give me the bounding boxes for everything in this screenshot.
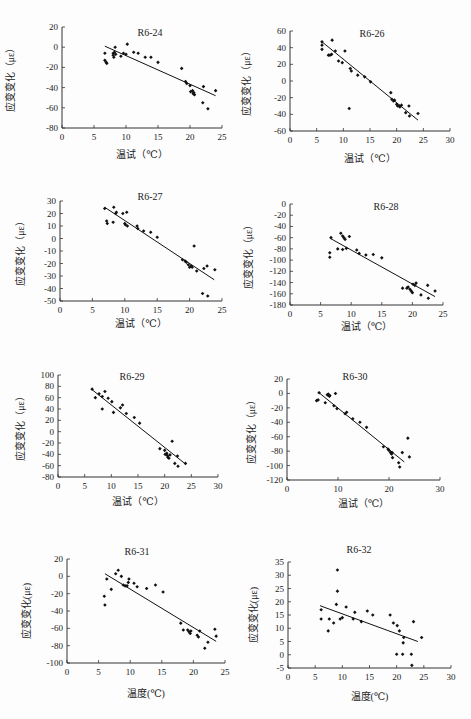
data-point	[201, 101, 205, 105]
y-tick-label: -100	[267, 461, 284, 471]
y-tick-label: 30	[47, 196, 57, 206]
data-point	[149, 230, 153, 234]
data-point	[319, 608, 323, 612]
data-point	[427, 296, 431, 300]
y-tick-label: -160	[270, 289, 287, 299]
chart-title: R6-29	[120, 371, 145, 382]
x-tick-label: 20	[392, 672, 402, 682]
data-point	[149, 56, 153, 60]
y-tick-label: -10	[44, 246, 56, 256]
data-point	[214, 634, 218, 638]
data-point	[205, 264, 209, 268]
x-axis-label: 温度(℃)	[351, 690, 389, 703]
scatter-chart-r6-29: 100806040200-20-40-60-80051015202530R6-2…	[14, 370, 223, 507]
x-tick-label: 15	[154, 132, 164, 142]
data-point	[343, 49, 347, 53]
y-tick-label: -80	[42, 472, 54, 482]
trend-line	[92, 390, 185, 464]
x-tick-label: 20	[189, 667, 199, 677]
data-point	[192, 244, 196, 248]
x-tick-label: 20	[185, 305, 195, 315]
data-point	[138, 421, 142, 425]
data-point	[143, 56, 147, 60]
data-point	[412, 620, 416, 624]
data-point	[125, 210, 129, 214]
data-point	[173, 462, 177, 466]
data-point	[335, 603, 339, 607]
data-point	[401, 641, 405, 645]
x-tick-label: 20	[160, 481, 170, 491]
chart-title: R6-30	[343, 371, 368, 382]
data-point	[320, 43, 324, 47]
data-point	[97, 392, 101, 396]
data-point	[103, 390, 107, 394]
x-tick-label: 5	[90, 305, 95, 315]
x-tick-label: 10	[334, 484, 344, 494]
data-point	[408, 455, 412, 459]
data-point	[202, 267, 206, 271]
x-tick-label: 20	[408, 309, 418, 319]
x-tick-label: 10	[122, 132, 132, 142]
data-point	[179, 621, 183, 625]
data-point	[323, 401, 327, 405]
data-point	[328, 256, 332, 260]
data-point	[398, 629, 402, 633]
data-point	[124, 412, 128, 416]
data-point	[119, 406, 123, 410]
data-point	[397, 461, 401, 465]
y-tick-label: -60	[274, 233, 286, 243]
x-tick-label: 5	[318, 309, 323, 319]
data-point	[158, 447, 162, 451]
data-point	[410, 652, 414, 656]
data-point	[176, 454, 180, 458]
x-tick-label: 5	[314, 135, 319, 145]
data-point	[119, 54, 123, 58]
y-tick-label: 0	[54, 42, 59, 52]
data-point	[364, 253, 368, 257]
x-tick-label: 30	[214, 481, 224, 491]
figure-canvas: 200-20-40-60-800510152025R6-24温试（℃）应变变化（…	[0, 0, 471, 719]
data-point	[327, 617, 331, 621]
chart-title: R6-26	[360, 28, 385, 39]
y-tick-label: -20	[46, 62, 58, 72]
data-point	[116, 568, 120, 572]
x-tick-label: 25	[221, 667, 231, 677]
x-tick-label: 0	[288, 309, 293, 319]
x-axis-label: 温度(℃)	[127, 687, 165, 700]
data-point	[163, 449, 167, 453]
data-point	[105, 577, 109, 581]
chart-title: R6-24	[138, 27, 163, 38]
data-point	[336, 589, 340, 593]
y-tick-label: -40	[44, 284, 56, 294]
y-axis-label: 应变变化(με)	[247, 587, 260, 643]
data-point	[326, 629, 330, 633]
y-tick-label: -100	[47, 658, 64, 668]
x-tick-label: 25	[419, 135, 429, 145]
data-point	[334, 392, 338, 396]
data-point	[180, 67, 184, 71]
y-tick-label: -50	[44, 296, 56, 306]
data-point	[426, 284, 430, 288]
y-tick-label: -20	[274, 210, 286, 220]
y-tick-label: -5	[277, 663, 285, 673]
data-point	[170, 440, 174, 444]
x-tick-label: 25	[218, 132, 228, 142]
data-point	[112, 411, 116, 415]
data-point	[109, 588, 113, 592]
data-point	[114, 572, 118, 576]
data-point	[106, 396, 110, 400]
data-point	[395, 652, 399, 656]
y-tick-label: 20	[54, 554, 64, 564]
y-tick-label: 20	[47, 209, 57, 219]
x-tick-label: 10	[126, 667, 136, 677]
data-point	[319, 617, 323, 621]
trend-line	[105, 207, 215, 280]
data-point	[103, 51, 107, 55]
y-tick-label: 0	[282, 199, 287, 209]
x-tick-label: 20	[186, 132, 196, 142]
y-tick-label: 15	[275, 610, 285, 620]
data-point	[154, 583, 158, 587]
x-tick-label: 25	[187, 481, 197, 491]
data-point	[120, 575, 124, 579]
y-tick-label: 0	[279, 388, 284, 398]
